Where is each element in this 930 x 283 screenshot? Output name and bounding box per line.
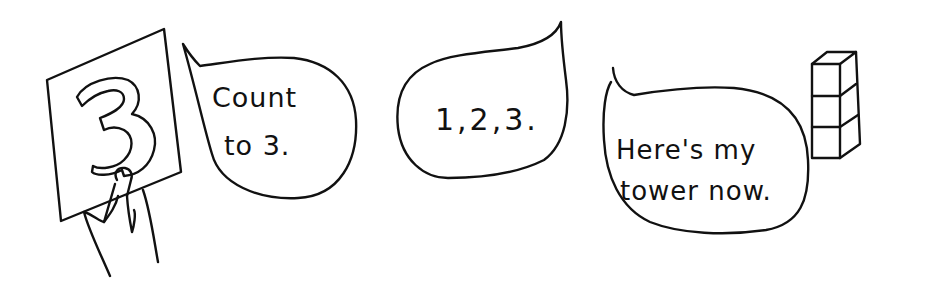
bubble-counting-line-1: 1,2,3. <box>435 105 539 135</box>
bubble-child-line-2: tower now. <box>620 178 772 204</box>
speech-bubble-teacher <box>183 44 356 198</box>
bubble-teacher-line-1: Count <box>212 84 297 111</box>
bubble-teacher-line-2: to 3. <box>224 132 290 159</box>
bubble-child-line-1: Here's my <box>616 137 756 163</box>
hand-icon <box>84 168 158 276</box>
number-card <box>47 29 181 221</box>
illustration <box>0 0 930 283</box>
cube-tower-icon <box>812 52 860 158</box>
numeral-three-outline-icon <box>77 78 155 176</box>
speech-bubble-counting <box>397 22 567 178</box>
